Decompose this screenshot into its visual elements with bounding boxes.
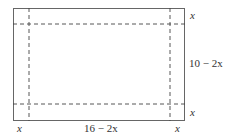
label-bottom-corner-x: x: [174, 122, 180, 134]
label-right-side: 10 − 2x: [189, 57, 223, 69]
label-bottom-middle: 16 − 2x: [84, 122, 118, 134]
box-diagram: x 10 − 2x x x 16 − 2x x: [0, 0, 227, 139]
label-bottom-right-x: x: [189, 106, 195, 118]
label-bottom-left-x: x: [16, 122, 22, 134]
label-top-right-x: x: [189, 9, 195, 21]
